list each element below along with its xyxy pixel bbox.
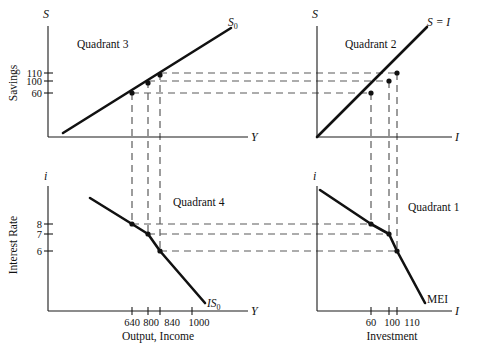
quadrant1-axis-name-I: I [454,304,460,318]
quadrant3-ylabel-100: 100 [26,76,42,87]
point-I110 [394,70,399,75]
curve-label-S-equals-I: S = I [427,16,451,28]
point-I100 [386,78,391,83]
quadrant4-label: Quadrant 4 [173,196,225,208]
point-IS-800 [145,231,150,236]
quadrant4-ylabel-7: 7 [37,229,42,240]
panel-quadrant3: 110 100 60 S Y Savings Quadrant 3 S0 [7,7,259,144]
quadrant3-axis-name-Y: Y [251,130,259,144]
quadrant4-ylabel-6: 6 [37,246,42,257]
quadrant1-label: Quadrant 1 [408,201,460,213]
quadrant4-xlabel-640: 640 [124,317,140,328]
quadrant4-xlabel-800: 800 [143,317,159,328]
quadrant3-ylabel-60: 60 [32,88,43,99]
point-S60 [129,90,134,95]
quadrant4-xlabel-840: 840 [164,317,180,328]
quadrant4-axis-name-i: i [44,169,47,183]
point-IS-840 [157,248,162,253]
point-I60 [368,90,373,95]
quadrant3-ylabel-title: Savings [7,64,20,101]
quadrant4-xlabel-title: Output, Income [122,330,194,343]
quadrant1-xlabel-60: 60 [366,317,377,328]
quadrant4-ylabel-title: Interest Rate [7,216,19,274]
panel-quadrant4: 8 7 6 640 800 840 1000 i Y Interest Rate… [7,169,259,343]
point-S100 [145,80,150,85]
quadrant1-xlabel-title: Investment [366,330,418,342]
panel-quadrant2: S I Quadrant 2 S = I [312,7,460,144]
quadrant2-label: Quadrant 2 [345,38,397,50]
curve-label-IS0: IS0 [206,297,221,312]
curve-label-MEI: MEI [427,293,448,305]
point-MEI-60 [368,221,373,226]
quadrant4-axis-name-Y: Y [251,304,259,318]
quadrant3-label: Quadrant 3 [77,38,129,50]
quadrant2-axis-name-I: I [454,130,460,144]
quadrant2-axis-name-S: S [312,7,318,21]
quadrant4-xlabel-1000: 1000 [189,317,210,328]
four-quadrant-diagram: 110 100 60 S Y Savings Quadrant 3 S0 S I… [0,0,478,346]
panel-quadrant1: 60 100 110 i I Investment Quadrant 1 MEI [313,169,460,342]
point-MEI-100 [386,231,391,236]
dashed-guide-network [132,73,397,251]
quadrant1-axis-name-i: i [313,169,316,183]
quadrant1-xlabel-110: 110 [404,317,419,328]
point-IS-640 [129,221,134,226]
quadrant1-xlabel-100: 100 [384,317,400,328]
point-S110 [157,72,162,77]
quadrant3-axis-name-S: S [43,7,49,21]
point-MEI-110 [394,248,399,253]
